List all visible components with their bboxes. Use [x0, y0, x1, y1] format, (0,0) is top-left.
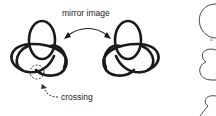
left-trefoil-knot: [11, 21, 66, 76]
mirror-image-label: mirror image: [62, 8, 110, 18]
partial-letter-label: u: [210, 36, 213, 42]
partial-knot-figures: [199, 4, 216, 116]
crossing-arrowhead: [41, 84, 47, 89]
right-trefoil-knot: [103, 21, 158, 76]
mirror-arrowhead-right: [104, 32, 111, 39]
crossing-label: crossing: [61, 92, 93, 102]
crossing-arrow: [44, 87, 58, 97]
mirror-arrowhead-left: [64, 32, 71, 39]
mirror-double-arrow: [67, 29, 108, 37]
